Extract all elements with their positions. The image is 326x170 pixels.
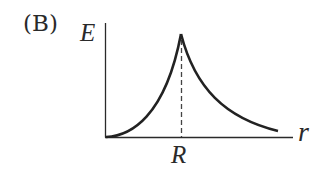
rising-curve (106, 34, 181, 137)
decaying-curve (181, 34, 278, 131)
field-graph (0, 0, 326, 170)
